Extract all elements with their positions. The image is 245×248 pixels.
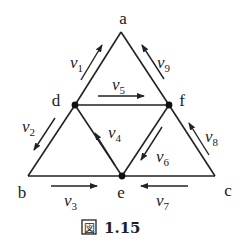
- flow-label-v6: v6: [156, 147, 170, 168]
- flow-label-v5: v5: [112, 75, 126, 96]
- flow-label-v9: v9: [157, 53, 171, 74]
- edge-db: [28, 105, 75, 176]
- vertex-label-e: e: [117, 183, 125, 202]
- flow-label-v8: v8: [205, 127, 219, 148]
- vertex-label-b: b: [18, 183, 27, 202]
- vertex-label-f: f: [179, 91, 185, 110]
- vertex-label-a: a: [119, 9, 127, 28]
- vertex-label-d: d: [52, 91, 61, 110]
- figure-icon-glyph: 図: [84, 223, 95, 236]
- vertex-dot-e: [119, 173, 126, 180]
- flow-arrow-v1: [81, 45, 102, 80]
- flow-label-v3: v3: [64, 191, 78, 212]
- figure-caption: 図 1.15: [82, 219, 141, 237]
- flow-arrow-v2: [34, 118, 55, 150]
- flow-label-v4: v4: [108, 123, 122, 144]
- figure-number: 1.15: [104, 219, 141, 237]
- flow-label-v2: v2: [22, 117, 35, 138]
- graph-diagram: v1v2v3v4v5v6v7v8v9 abcdef 図 1.15: [0, 0, 245, 248]
- vertex-dot-f: [166, 102, 173, 109]
- flow-label-v7: v7: [156, 191, 170, 212]
- vertex-label-c: c: [224, 181, 232, 200]
- vertex-dot-d: [72, 102, 79, 109]
- flow-label-v1: v1: [70, 53, 83, 74]
